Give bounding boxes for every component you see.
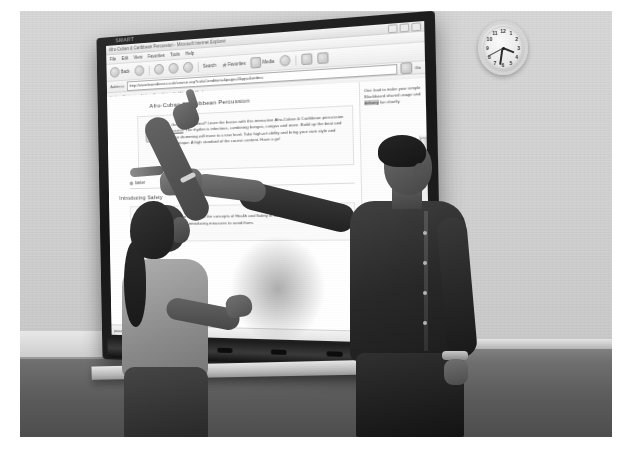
printer-icon	[317, 52, 328, 64]
clock-center-pin	[502, 47, 505, 50]
media-icon	[250, 57, 261, 69]
history-button[interactable]	[279, 55, 290, 67]
home-button[interactable]	[183, 62, 193, 73]
clock-number-3: 3	[517, 45, 520, 51]
menu-item-help[interactable]: Help	[185, 51, 194, 57]
media-button[interactable]: Media	[250, 56, 274, 69]
clock-number-2: 2	[515, 36, 518, 42]
man-shirt-button-1	[423, 231, 427, 235]
menu-item-tools[interactable]: Tools	[170, 52, 180, 58]
toolbar-separator-3	[295, 55, 296, 65]
go-button[interactable]: Go	[401, 61, 421, 74]
stop-icon	[154, 64, 164, 75]
clock-number-5: 5	[510, 60, 513, 66]
home-icon	[183, 62, 193, 73]
clock-number-11: 11	[492, 30, 497, 36]
search-label: Search	[203, 63, 216, 69]
maximize-icon[interactable]	[400, 23, 410, 32]
star-icon: ★	[221, 61, 227, 68]
man-shirt-button-2	[423, 261, 427, 265]
tab-taster[interactable]: taster	[130, 180, 146, 185]
history-icon	[279, 55, 290, 67]
person-woman	[102, 199, 230, 437]
address-label: Address	[110, 84, 124, 90]
smart-board-logo: SMART	[115, 36, 134, 43]
stop-button[interactable]	[154, 64, 164, 75]
search-button[interactable]: Search	[203, 63, 216, 69]
toolbar-separator-2	[197, 62, 198, 72]
clock-number-12: 12	[500, 28, 506, 34]
woman-trousers	[124, 367, 208, 437]
clock-number-1: 1	[510, 30, 513, 36]
window-controls[interactable]	[388, 22, 421, 33]
sidebar-text: One lead to make your simple Blackboard …	[364, 85, 422, 108]
sidebar-highlight: delivery	[364, 100, 379, 106]
clock-number-7: 7	[494, 60, 497, 66]
go-arrow-icon	[401, 62, 413, 74]
forward-arrow-icon	[134, 65, 144, 76]
tab-taster-label: taster	[135, 180, 145, 185]
clock-number-6: 6	[502, 62, 505, 68]
media-label: Media	[262, 59, 274, 65]
mail-icon	[301, 53, 312, 65]
man-shirt-button-4	[423, 321, 427, 325]
refresh-button[interactable]	[168, 63, 178, 74]
classroom-photograph: 12 1 2 3 4 5 6 7 8 9 10 11 SMART	[20, 11, 612, 437]
toolbar-separator	[148, 65, 149, 75]
person-man	[316, 139, 502, 437]
print-button[interactable]	[317, 52, 328, 64]
back-label: Back	[121, 69, 130, 74]
go-label: Go	[415, 65, 421, 71]
woman-face	[172, 217, 190, 243]
sidebar-line-2: simple Blackboard	[364, 85, 420, 100]
sidebar-line-3: shared usage and	[386, 91, 420, 98]
sidebar-line-1: One lead to make your	[364, 86, 407, 94]
woman-hair	[130, 201, 174, 259]
favorites-button[interactable]: ★ Favorites	[221, 60, 246, 69]
back-button[interactable]: Back	[110, 66, 130, 78]
pen-slot-3[interactable]	[271, 349, 287, 355]
close-icon[interactable]	[411, 22, 421, 31]
refresh-icon	[168, 63, 178, 74]
photo-white-border: 12 1 2 3 4 5 6 7 8 9 10 11 SMART	[0, 0, 632, 450]
clock-number-9: 9	[486, 45, 489, 51]
clock-number-4: 4	[515, 54, 518, 60]
bullet-icon	[130, 181, 134, 185]
sidebar-line-4: fun shortly.	[380, 99, 400, 105]
clock-number-10: 10	[487, 36, 493, 42]
menu-item-favorites[interactable]: Favorites	[148, 53, 165, 59]
man-shirt-button-3	[423, 291, 427, 295]
man-right-hand	[444, 359, 468, 385]
man-ear	[414, 163, 425, 176]
forward-button[interactable]	[134, 65, 144, 76]
clock-face: 12 1 2 3 4 5 6 7 8 9 10 11	[483, 26, 523, 70]
favorites-label: Favorites	[228, 61, 246, 67]
menu-item-edit[interactable]: Edit	[121, 56, 128, 61]
menu-item-file[interactable]: File	[110, 57, 117, 62]
wall-clock: 12 1 2 3 4 5 6 7 8 9 10 11	[478, 21, 528, 75]
man-shadow	[230, 235, 326, 343]
back-arrow-icon	[110, 67, 120, 78]
menu-item-view[interactable]: View	[134, 55, 143, 60]
mail-button[interactable]	[301, 53, 312, 65]
minimize-icon[interactable]	[388, 24, 398, 33]
